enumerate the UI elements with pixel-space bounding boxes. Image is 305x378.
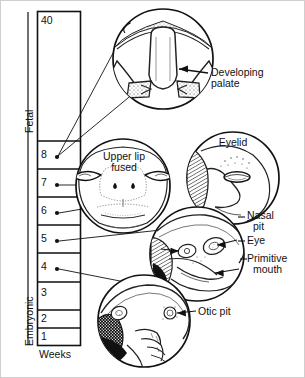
week-tick-1: 1 [41,331,47,342]
weeks-axis-label: Weeks [39,349,71,360]
week-tick-3: 3 [41,287,47,298]
developing-palate-drawing [107,9,219,113]
timeline-scale [28,12,81,346]
week-tick-40: 40 [41,15,53,26]
eye-label: Eye [247,235,265,246]
primitive-mouth-label-line2: mouth [253,264,282,275]
upper-lip-fused-label-line2: fused [97,162,151,173]
nasal-pit-label-line2: pit [253,221,264,232]
period-label-embryonic: Embryonic [23,296,35,346]
week-tick-4: 4 [41,261,47,272]
embryology-figure: Fetal Embryonic 40 8 7 6 5 4 3 2 1 Weeks… [0,0,305,378]
otic-pit-label: Otic pit [198,306,231,317]
week-tick-2: 2 [41,313,47,324]
week-tick-5: 5 [41,233,47,244]
week-tick-7: 7 [41,177,47,188]
week-tick-6: 6 [41,205,47,216]
eyelid-label: Eyelid [209,137,257,148]
period-label-fetal: Fetal [23,110,35,133]
developing-palate-label-line2: palate [211,78,240,89]
week-tick-8: 8 [41,149,47,160]
